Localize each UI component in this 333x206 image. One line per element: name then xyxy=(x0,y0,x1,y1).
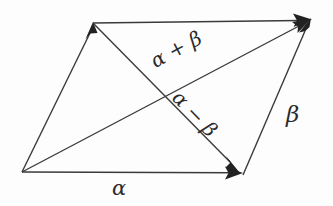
label-beta-right: β xyxy=(286,103,299,126)
label-alpha-bottom: α xyxy=(112,178,126,199)
parallelogram-diagram xyxy=(0,0,333,206)
beta-left-line xyxy=(22,33,90,172)
alpha-top-line xyxy=(93,21,300,24)
beta-right-edge xyxy=(243,18,311,175)
alpha-bottom-edge xyxy=(22,167,243,180)
beta-left-edge xyxy=(22,22,98,172)
alpha-top-edge xyxy=(93,14,312,28)
beta-left-arrowhead xyxy=(86,22,98,39)
alpha-bottom-line xyxy=(22,172,233,173)
vector-parallelogram-figure: α β α + β α − β xyxy=(0,0,333,206)
